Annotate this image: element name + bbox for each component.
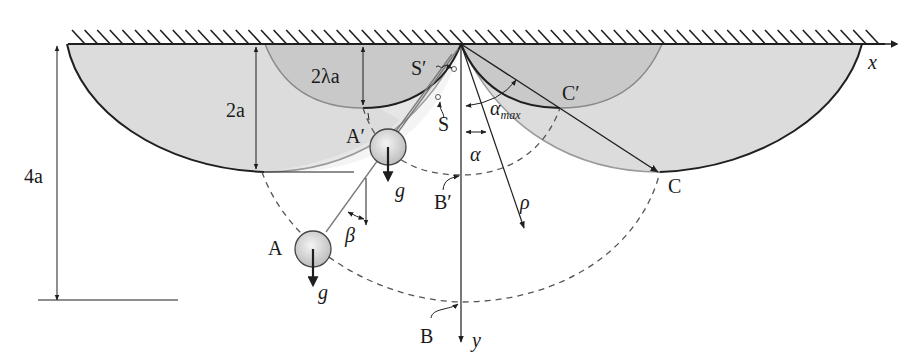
- diagram-graphics: [0, 0, 908, 364]
- rho-label: ρ: [520, 192, 530, 212]
- point-S-prime-label: S′: [411, 58, 427, 78]
- x-axis-label: x: [868, 52, 877, 72]
- point-C-label: C: [668, 176, 681, 196]
- gravity-label-A: g: [318, 282, 328, 302]
- point-B-label: B: [420, 326, 433, 346]
- point-B-prime-label: B′: [434, 192, 452, 212]
- cycloidal-pendulum-diagram: x y 2a 2λa 4a S′ S A′ A B′ B C′ C g g α …: [0, 0, 908, 364]
- beta-angle: [348, 178, 366, 225]
- beta-label: β: [345, 225, 355, 245]
- y-axis-label: y: [472, 330, 481, 350]
- point-S-prime-marker: [452, 67, 457, 72]
- point-S-marker: [436, 95, 441, 100]
- point-S-label: S: [438, 114, 449, 134]
- depth-2-lambda-a-label: 2λa: [311, 66, 340, 86]
- depth-2a-label: 2a: [226, 100, 245, 120]
- point-C-prime-label: C′: [562, 83, 580, 103]
- ceiling-hatch: [68, 30, 885, 44]
- point-A-prime-label: A′: [346, 126, 365, 146]
- point-A-label: A: [268, 238, 282, 258]
- alpha-max-label: αmax: [490, 98, 521, 118]
- gravity-label-A-prime: g: [395, 180, 405, 200]
- large-cycloid-cheeks: [67, 44, 862, 172]
- alpha-label: α: [470, 144, 481, 164]
- height-4a-label: 4a: [24, 166, 43, 186]
